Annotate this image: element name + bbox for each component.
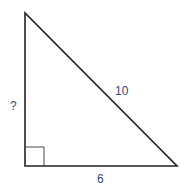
hypotenuse-label: 10 bbox=[115, 84, 129, 98]
right-angle-marker bbox=[25, 147, 44, 166]
right-triangle-diagram: ? 10 6 bbox=[0, 0, 185, 190]
horizontal-leg-label: 6 bbox=[97, 172, 104, 186]
vertical-leg-label: ? bbox=[10, 99, 17, 113]
triangle-outline bbox=[25, 13, 177, 166]
